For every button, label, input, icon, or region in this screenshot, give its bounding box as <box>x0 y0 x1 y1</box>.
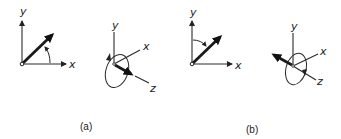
x-axis-label: x <box>142 40 150 53</box>
caption-a: (a) <box>80 121 92 132</box>
origin-dot <box>113 63 116 66</box>
z-axis <box>135 76 149 83</box>
circle-arrowhead <box>106 53 111 61</box>
rotation-diagram: y x y x z (a) y x <box>0 0 341 139</box>
origin-dot <box>190 62 194 66</box>
x-axis <box>114 50 140 64</box>
panel-b-spatial: y x z <box>274 20 327 88</box>
x-axis-label: x <box>234 59 242 72</box>
origin-dot <box>292 65 295 68</box>
vector-arrow <box>23 35 52 63</box>
x-axis-label: x <box>319 45 327 58</box>
z-axis-label: z <box>316 75 323 88</box>
x-axis-label: x <box>68 58 76 71</box>
y-axis-label: y <box>111 19 119 32</box>
panel-b-planar: y x <box>189 6 242 72</box>
y-axis-label: y <box>189 6 197 19</box>
panel-a-spatial: y x z <box>101 19 156 95</box>
rotation-arc-cw <box>193 40 206 46</box>
y-axis-label: y <box>19 5 27 18</box>
rotation-arc-ccw <box>45 47 50 63</box>
caption-b: (b) <box>246 124 258 135</box>
rotation-circle <box>282 51 310 87</box>
z-axis-label: z <box>149 82 156 95</box>
origin-dot <box>20 62 24 66</box>
y-axis-label: y <box>290 20 298 33</box>
panel-a-planar: y x <box>19 5 76 71</box>
